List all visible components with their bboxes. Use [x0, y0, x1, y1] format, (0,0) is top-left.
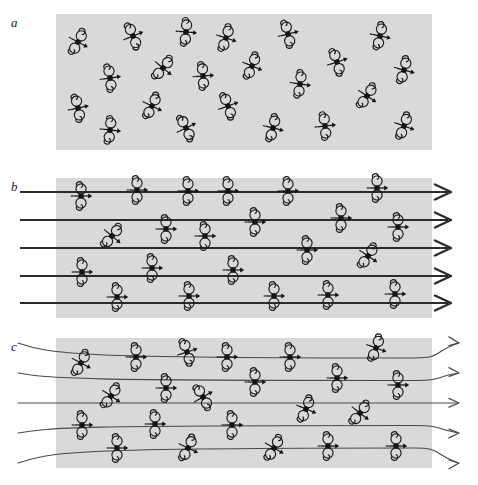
molecule-lobe-icon — [222, 345, 232, 355]
dipole-arrowhead-icon — [208, 389, 214, 395]
molecule-core — [152, 421, 157, 426]
dipole-tail-tick — [194, 401, 196, 402]
dipole-arrowhead-icon — [173, 386, 177, 391]
field-line-arrowhead-icon — [449, 368, 459, 377]
molecule — [65, 345, 98, 380]
dipole-tail-tick — [72, 358, 74, 359]
molecule-lobe-icon — [332, 366, 342, 376]
molecule — [156, 374, 178, 403]
molecule-core — [270, 444, 277, 451]
dipole-arrowhead-icon — [312, 409, 318, 415]
dipole-arrowhead-icon — [193, 449, 199, 455]
molecule-core — [199, 393, 206, 400]
molecule — [94, 378, 128, 414]
dipole-tail-tick — [265, 443, 267, 444]
molecule — [187, 379, 220, 415]
field-line — [18, 373, 458, 381]
molecule — [327, 364, 349, 393]
dipole-arrowhead-icon — [162, 422, 166, 427]
molecule — [386, 432, 408, 461]
dipole-tail-tick — [352, 407, 354, 409]
molecule-core — [114, 445, 119, 450]
molecule-core — [287, 354, 292, 359]
molecule-lobe-icon — [323, 448, 333, 458]
molecule-lobe-icon — [227, 427, 237, 437]
molecule-lobe-icon — [285, 359, 295, 369]
molecule-lobe-icon — [372, 335, 385, 348]
dipole-arrowhead-icon — [89, 423, 93, 428]
molecule-core — [184, 349, 191, 356]
molecule-lobe-icon — [131, 345, 141, 355]
dipole-arrowhead-icon — [297, 355, 301, 360]
molecule-core — [163, 385, 168, 390]
molecule-core — [252, 379, 257, 384]
molecule — [361, 331, 391, 365]
molecule-core — [77, 359, 84, 366]
molecule-lobe-icon — [250, 384, 260, 394]
molecule-lobe-icon — [285, 345, 295, 355]
molecule-lobe-icon — [391, 448, 401, 458]
molecule-lobe-icon — [393, 387, 403, 397]
field-line-arrowhead-icon — [449, 337, 459, 346]
molecule-core — [224, 354, 229, 359]
dipole-arrowhead-icon — [382, 348, 387, 354]
molecule-lobe-icon — [112, 436, 122, 446]
field-line-arrowhead-icon — [449, 460, 459, 469]
molecule — [172, 431, 204, 466]
dipole-arrowhead-icon — [193, 346, 198, 352]
molecule-lobe-icon — [183, 352, 196, 365]
molecule — [291, 392, 322, 427]
molecule-lobe-icon — [250, 370, 260, 380]
molecule-core — [303, 406, 310, 413]
field-line — [18, 343, 458, 358]
dipole-arrowhead-icon — [344, 376, 348, 381]
polar-molecule-field-figure: a b c — [0, 0, 478, 485]
molecule-core — [395, 382, 400, 387]
molecule — [107, 434, 129, 463]
molecule-core — [334, 375, 339, 380]
molecule-lobe-icon — [323, 434, 333, 444]
molecule — [388, 371, 410, 400]
molecule-core — [373, 345, 380, 352]
dipole-tail-tick — [179, 443, 182, 444]
molecule-core — [79, 422, 84, 427]
molecule-core — [185, 445, 192, 452]
molecule-lobe-icon — [391, 434, 401, 444]
panel-c-canvas — [0, 0, 478, 485]
field-line-arrowhead-icon — [449, 429, 459, 438]
dipole-arrowhead-icon — [405, 383, 409, 388]
molecule — [217, 343, 239, 372]
dipole-tail-tick — [177, 354, 180, 355]
molecule-core — [393, 443, 398, 448]
molecule-core — [229, 422, 234, 427]
molecule-lobe-icon — [150, 426, 160, 436]
molecule-lobe-icon — [112, 450, 122, 460]
dipole-arrowhead-icon — [86, 364, 92, 370]
molecule-lobe-icon — [77, 413, 87, 423]
molecule-lobe-icon — [161, 390, 171, 400]
molecule — [222, 411, 244, 440]
dipole-arrowhead-icon — [124, 446, 128, 451]
molecule-lobe-icon — [161, 376, 171, 386]
molecule — [318, 432, 340, 461]
molecule-lobe-icon — [222, 359, 232, 369]
dipole-arrowhead-icon — [143, 355, 147, 360]
dipole-arrowhead-icon — [239, 423, 243, 428]
molecule-lobe-icon — [150, 412, 160, 422]
molecule-lobe-icon — [227, 413, 237, 423]
molecule-lobe-icon — [332, 380, 342, 390]
molecule — [72, 411, 94, 440]
molecule-lobe-icon — [77, 427, 87, 437]
molecule — [245, 368, 267, 397]
dipole-tail-tick — [366, 344, 369, 345]
molecule-core — [133, 354, 138, 359]
dipole-tail-tick — [296, 405, 299, 406]
molecule — [126, 343, 148, 372]
molecule-core — [325, 443, 330, 448]
molecule-core — [107, 392, 114, 399]
dipole-tail-tick — [102, 390, 104, 392]
molecule — [173, 335, 202, 369]
dipole-arrowhead-icon — [279, 450, 285, 456]
molecule-lobe-icon — [393, 373, 403, 383]
molecule-lobe-icon — [131, 359, 141, 369]
